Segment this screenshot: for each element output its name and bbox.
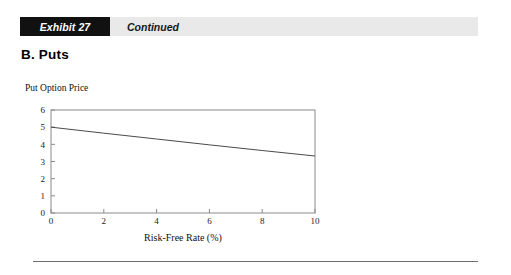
chart-plot-svg: 0123456 0246810 bbox=[0, 0, 511, 275]
x-tick-label: 8 bbox=[260, 216, 265, 226]
x-tick-label: 6 bbox=[207, 216, 212, 226]
footer-divider-rule bbox=[33, 261, 478, 262]
y-tick-label: 3 bbox=[41, 157, 46, 167]
y-tick-label: 2 bbox=[41, 174, 46, 184]
section-heading: B. Puts bbox=[21, 47, 69, 62]
x-tick-label: 4 bbox=[154, 216, 159, 226]
put-option-price-chart: Put Option Price 0123456 0246810 Risk-Fr… bbox=[0, 0, 511, 275]
exhibit-header-bar: Exhibit 27 Continued bbox=[20, 17, 478, 36]
chart-x-axis-ticks: 0246810 bbox=[49, 209, 320, 226]
chart-y-axis-ticks: 0123456 bbox=[41, 105, 56, 218]
y-tick-label: 5 bbox=[41, 122, 46, 132]
chart-data-line-put-option-price bbox=[51, 127, 315, 156]
x-tick-label: 10 bbox=[311, 216, 321, 226]
chart-plot-frame bbox=[51, 110, 315, 213]
x-tick-label: 0 bbox=[49, 216, 54, 226]
chart-y-axis-title: Put Option Price bbox=[25, 83, 88, 93]
chart-x-axis-title: Risk-Free Rate (%) bbox=[51, 232, 315, 243]
x-tick-label: 2 bbox=[102, 216, 107, 226]
y-tick-label: 6 bbox=[41, 105, 46, 115]
exhibit-number-label: Exhibit 27 bbox=[40, 21, 91, 33]
y-tick-label: 1 bbox=[41, 191, 46, 201]
exhibit-number-tag: Exhibit 27 bbox=[20, 17, 110, 36]
exhibit-continued-label-container: Continued bbox=[110, 17, 478, 36]
y-tick-label: 4 bbox=[41, 140, 46, 150]
exhibit-continued-label: Continued bbox=[127, 21, 179, 33]
y-tick-label: 0 bbox=[41, 208, 46, 218]
